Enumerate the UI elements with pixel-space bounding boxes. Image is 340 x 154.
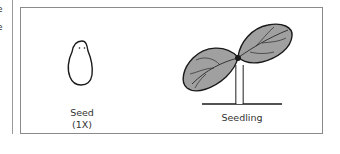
figure-illustration: [0, 0, 340, 154]
seedling-label: Seedling: [212, 112, 272, 124]
seed-icon: [68, 41, 92, 85]
seed-label: Seed: [62, 107, 102, 119]
seed-scale-label: (1X): [62, 119, 102, 131]
seedling-icon: [183, 24, 292, 104]
seed-caption: Seed (1X): [62, 107, 102, 131]
